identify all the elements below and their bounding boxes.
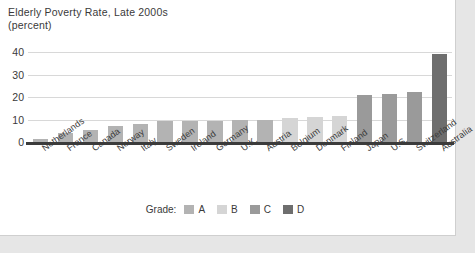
legend-item-label: D (297, 204, 304, 215)
legend-item-label: C (264, 204, 271, 215)
footer-cutoff-text (8, 245, 448, 253)
legend-swatch-icon (184, 205, 194, 214)
chart-subtitle: (percent) (8, 19, 168, 32)
bar (407, 92, 422, 142)
legend-swatch-icon (283, 205, 293, 214)
legend-item-label: B (231, 204, 238, 215)
y-tick-label-30: 30 (0, 69, 24, 81)
legend-item-a[interactable]: A (184, 204, 205, 215)
chart-title: Elderly Poverty Rate, Late 2000s (8, 6, 168, 19)
x-axis-labels: NetherlandsFranceCanadaNorwayItalySweden… (28, 145, 452, 191)
legend-item-b[interactable]: B (217, 204, 238, 215)
chart-page: Elderly Poverty Rate, Late 2000s (percen… (0, 0, 475, 253)
legend-title: Grade: (146, 204, 177, 215)
legend-item-c[interactable]: C (250, 204, 271, 215)
legend-item-d[interactable]: D (283, 204, 304, 215)
chart-title-block: Elderly Poverty Rate, Late 2000s (percen… (8, 6, 168, 32)
y-tick-label-10: 10 (0, 114, 24, 126)
y-axis: 010203040 (0, 52, 24, 142)
legend-swatch-icon (250, 205, 260, 214)
y-tick-label-40: 40 (0, 46, 24, 58)
y-tick-label-0: 0 (0, 136, 24, 148)
chart-card-panel: Elderly Poverty Rate, Late 2000s (percen… (0, 0, 456, 236)
legend-item-label: A (198, 204, 205, 215)
chart-legend: Grade: ABCD (0, 204, 456, 215)
legend-swatch-icon (217, 205, 227, 214)
y-tick-label-20: 20 (0, 91, 24, 103)
